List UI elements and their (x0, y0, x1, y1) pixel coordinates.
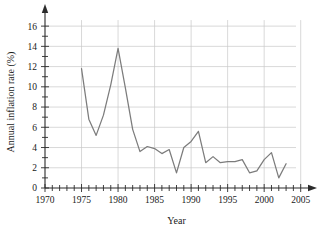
inflation-series-line (82, 48, 287, 178)
x-tick-label: 1995 (218, 195, 237, 205)
horizontal-gridlines (45, 26, 296, 168)
y-tick-label: 14 (28, 42, 38, 52)
x-tick-label: 1980 (109, 195, 128, 205)
y-tick-label: 16 (28, 22, 38, 32)
y-axis-tick-labels: 0246810121416 (28, 22, 38, 194)
vertical-gridlines (82, 20, 301, 188)
y-axis-title: Annual inflation rate (%) (5, 52, 17, 153)
y-tick-label: 12 (28, 62, 38, 72)
x-axis-title: Year (167, 215, 186, 226)
y-tick-label: 2 (32, 163, 37, 173)
y-tick-label: 4 (32, 143, 37, 153)
x-axis-arrow-icon (308, 185, 317, 191)
x-axis-tick-labels: 19701975198019851990199520002005 (36, 195, 311, 205)
y-tick-label: 8 (32, 102, 37, 112)
y-tick-label: 0 (32, 183, 37, 193)
x-tick-label: 1970 (36, 195, 55, 205)
inflation-line-chart: 19701975198019851990199520002005 0246810… (0, 0, 332, 230)
y-axis-arrow-icon (42, 4, 48, 13)
y-tick-label: 6 (32, 123, 37, 133)
x-tick-label: 1990 (182, 195, 201, 205)
x-tick-label: 1975 (72, 195, 91, 205)
x-tick-label: 2005 (291, 195, 310, 205)
y-tick-label: 10 (28, 82, 38, 92)
chart-canvas: 19701975198019851990199520002005 0246810… (0, 0, 332, 230)
x-tick-label: 2000 (255, 195, 274, 205)
x-tick-label: 1985 (145, 195, 164, 205)
